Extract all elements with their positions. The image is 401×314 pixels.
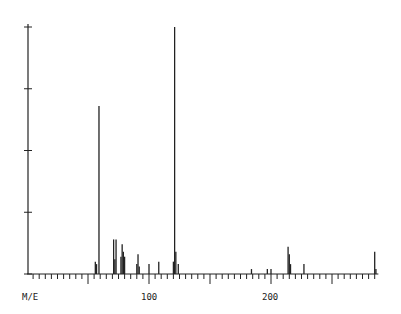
spectrum-peaks xyxy=(95,27,376,274)
x-axis xyxy=(27,274,378,284)
x-axis-label: M/E xyxy=(22,292,38,302)
x-tick-label-200: 200 xyxy=(262,292,278,302)
y-axis xyxy=(24,24,32,274)
x-tick-label-100: 100 xyxy=(141,292,157,302)
mass-spectrum-chart: M/E 100 200 xyxy=(0,0,401,314)
